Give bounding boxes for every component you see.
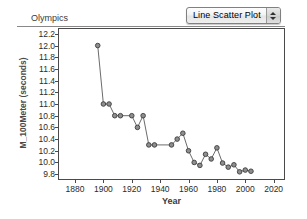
- data-point[interactable]: [169, 143, 174, 148]
- x-tick-label: 2000: [236, 184, 255, 194]
- x-tick-label: 1960: [179, 184, 198, 194]
- x-tick-label: 1980: [207, 184, 226, 194]
- data-point[interactable]: [186, 148, 191, 153]
- data-point[interactable]: [101, 102, 106, 107]
- chart-window: Line Scatter Plot Olympics M_100Meter (s…: [0, 0, 307, 219]
- data-point[interactable]: [249, 169, 254, 174]
- data-point[interactable]: [237, 170, 242, 175]
- data-point[interactable]: [243, 168, 248, 173]
- data-point[interactable]: [95, 43, 100, 48]
- x-tick-label: 1900: [94, 184, 113, 194]
- series-plot: [58, 28, 285, 180]
- data-point[interactable]: [112, 113, 117, 118]
- data-point[interactable]: [147, 143, 152, 148]
- data-point[interactable]: [141, 113, 146, 118]
- series-line: [98, 46, 251, 172]
- x-tick-mark: [217, 180, 218, 183]
- data-point[interactable]: [209, 157, 214, 162]
- x-tick-mark: [274, 180, 275, 183]
- data-point[interactable]: [215, 146, 220, 151]
- x-tick-label: 2020: [264, 184, 283, 194]
- x-tick-mark: [132, 180, 133, 183]
- data-point[interactable]: [129, 113, 134, 118]
- x-tick-mark: [189, 180, 190, 183]
- data-point[interactable]: [118, 113, 123, 118]
- x-tick-label: 1920: [122, 184, 141, 194]
- x-tick-mark: [103, 180, 104, 183]
- data-point[interactable]: [220, 161, 225, 166]
- data-point[interactable]: [203, 152, 208, 157]
- x-tick-label: 1940: [151, 184, 170, 194]
- x-tick-mark: [245, 180, 246, 183]
- data-point[interactable]: [152, 143, 157, 148]
- x-tick-mark: [160, 180, 161, 183]
- data-point[interactable]: [175, 137, 180, 142]
- data-point[interactable]: [135, 125, 140, 130]
- data-point[interactable]: [181, 131, 186, 136]
- x-tick-label: 1880: [66, 184, 85, 194]
- x-tick-mark: [75, 180, 76, 183]
- data-point[interactable]: [232, 163, 237, 168]
- data-point[interactable]: [192, 160, 197, 165]
- data-point[interactable]: [226, 165, 231, 170]
- data-point[interactable]: [198, 163, 203, 168]
- data-point[interactable]: [107, 102, 112, 107]
